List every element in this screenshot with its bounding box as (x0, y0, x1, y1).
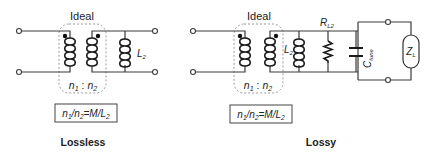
ideal-label: Ideal (70, 10, 94, 22)
terminal-icon (17, 70, 22, 75)
resistor-icon (324, 41, 332, 63)
inductor-label: L2 (137, 48, 147, 60)
wire (92, 31, 153, 38)
wire (195, 31, 245, 38)
terminal-icon (191, 29, 196, 34)
lossless-circuit: Ideal L2 n1 : n2 n1/n2=M/L2 Lossless (17, 10, 158, 148)
terminal-icon (153, 70, 158, 75)
caption-lossy: Lossy (306, 136, 337, 148)
terminal-icon (386, 78, 391, 83)
turns-ratio-label: n1 : n2 (69, 79, 97, 92)
secondary-coil-icon (87, 38, 98, 66)
turns-ratio-label: n1 : n2 (244, 79, 272, 92)
polarity-dot-icon (96, 34, 100, 38)
wire (21, 31, 70, 38)
capacitor-icon (349, 48, 363, 56)
wire (195, 66, 245, 72)
resistor-label: RL2 (320, 17, 335, 29)
terminal-icon (153, 29, 158, 34)
terminal-icon (17, 29, 22, 34)
terminal-icon (386, 20, 391, 25)
primary-coil-icon (65, 38, 76, 66)
wire (21, 66, 70, 72)
circuit-diagrams: Ideal L2 n1 : n2 n1/n2=M/L2 Lossless (0, 0, 433, 154)
ideal-label: Ideal (247, 10, 271, 22)
polarity-dot-icon (238, 34, 242, 38)
secondary-coil-icon (265, 38, 276, 66)
capacitor-label: Ctune (362, 48, 374, 68)
inductor-l2-icon (294, 39, 305, 67)
polarity-dot-icon (63, 34, 67, 38)
inductor-l2-icon (120, 39, 131, 67)
primary-coil-icon (240, 38, 251, 66)
inductor-label: L2 (284, 44, 294, 56)
polarity-dot-icon (274, 34, 278, 38)
terminal-icon (191, 70, 196, 75)
caption-lossless: Lossless (61, 136, 106, 148)
lossy-circuit: Ideal L2 RL2 Ctune ZL n1 : n2 n1/n2=M/L2… (191, 10, 420, 148)
